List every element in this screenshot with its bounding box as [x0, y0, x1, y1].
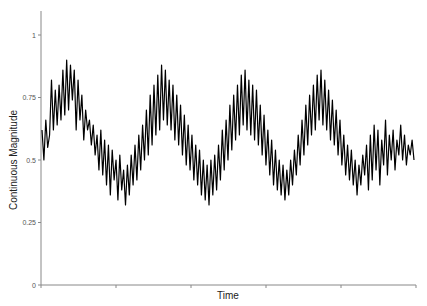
y-tick-label: 1: [32, 32, 36, 39]
y-tick-label: 0.75: [22, 94, 36, 101]
y-axis-title: Continuous Magnitude: [8, 110, 19, 211]
x-axis: [41, 285, 416, 288]
y-tick-label: 0.25: [22, 219, 36, 226]
y-tick-label: 0.5: [26, 157, 36, 164]
data-line: [42, 60, 414, 205]
line-chart: 00.250.50.751 Time Continuous Magnitude: [0, 0, 427, 306]
x-axis-title: Time: [217, 290, 239, 301]
y-axis: 00.250.50.751: [22, 11, 41, 289]
y-tick-label: 0: [32, 282, 36, 289]
